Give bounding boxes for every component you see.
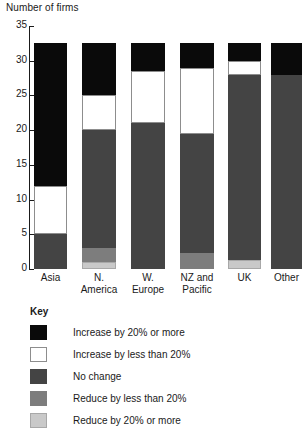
x-axis-label-line: Asia (25, 272, 76, 284)
x-axis-label-line: Pacific (171, 284, 223, 296)
bar-column (131, 43, 165, 269)
bar-segment-reduce_minor (82, 248, 116, 262)
bar-column (228, 43, 261, 269)
bar-segment-increase_major (82, 43, 116, 95)
bar-segment-increase_major (34, 43, 67, 185)
x-axis-label-line: Europe (122, 284, 174, 296)
x-axis-label: Other (262, 272, 306, 284)
bar-segment-increase_major (180, 43, 214, 67)
x-axis-label-line: America (73, 284, 125, 296)
bar-segment-increase_minor (34, 186, 67, 235)
light-gray-swatch (30, 413, 47, 428)
x-axis-label-line: NZ and (171, 272, 223, 284)
legend-item-label: Reduce by less than 20% (73, 392, 186, 405)
y-axis-title: Number of firms (6, 2, 79, 13)
bar-segment-increase_minor (180, 68, 214, 134)
x-axis-label: W.Europe (122, 272, 174, 296)
x-axis-label: N.America (73, 272, 125, 296)
stacked-bar-chart: Number of firms 05101520253035 AsiaN.Ame… (0, 0, 306, 300)
bar-segment-reduce_major (82, 262, 116, 269)
bar-segment-no_change (34, 234, 67, 269)
bar-segment-no_change (131, 123, 165, 269)
x-axis-label: NZ andPacific (171, 272, 223, 296)
bars-layer (0, 20, 306, 272)
dark-gray-swatch (30, 369, 47, 384)
legend-item-label: Reduce by 20% or more (73, 414, 181, 427)
bar-segment-increase_minor (82, 95, 116, 130)
legend-item-label: Increase by 20% or more (73, 326, 185, 339)
bar-segment-no_change (271, 75, 302, 269)
bar-column (82, 43, 116, 269)
plot-area: 05101520253035 (0, 20, 306, 272)
x-axis-label-line: W. (122, 272, 174, 284)
bar-column (34, 43, 67, 269)
legend-item-label: No change (73, 370, 121, 383)
legend-item-label: Increase by less than 20% (73, 348, 190, 361)
x-axis-label-line: Other (262, 272, 306, 284)
bar-segment-no_change (180, 134, 214, 253)
x-axis-label: Asia (25, 272, 76, 284)
bar-segment-increase_minor (131, 71, 165, 123)
bar-segment-reduce_minor (180, 253, 214, 269)
legend: Key Increase by 20% or moreIncrease by l… (0, 302, 306, 440)
bar-segment-increase_major (131, 43, 165, 71)
white-swatch (30, 347, 47, 362)
bar-segment-increase_major (271, 43, 302, 74)
x-axis-labels: AsiaN.AmericaW.EuropeNZ andPacificUKOthe… (0, 272, 306, 300)
bar-column (180, 43, 214, 269)
x-axis-label-line: N. (73, 272, 125, 284)
bar-segment-no_change (228, 75, 261, 260)
black-swatch (30, 325, 47, 340)
bar-segment-reduce_major (228, 260, 261, 269)
bar-segment-no_change (82, 130, 116, 248)
mid-gray-swatch (30, 391, 47, 406)
bar-segment-increase_major (228, 43, 261, 60)
legend-title: Key (30, 306, 48, 317)
bar-column (271, 43, 302, 269)
bar-segment-increase_minor (228, 61, 261, 75)
